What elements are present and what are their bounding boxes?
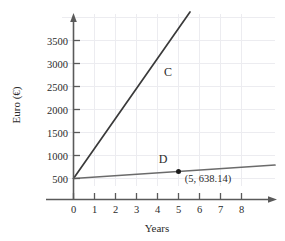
horizontal-gridlines xyxy=(62,41,275,179)
x-axis-ticks xyxy=(74,193,242,200)
series-label-d: D xyxy=(159,152,168,166)
chart-figure: 3500 3000 2500 2000 1500 1000 500 0 1 2 … xyxy=(0,0,285,241)
x-tick-label-7: 7 xyxy=(218,204,223,215)
y-axis-ticks xyxy=(74,41,81,179)
x-tick-label-4: 4 xyxy=(155,204,161,215)
x-tick-labels: 0 1 2 3 4 5 6 7 8 xyxy=(71,204,244,215)
x-tick-label-5: 5 xyxy=(176,204,181,215)
y-tick-label-1500: 1500 xyxy=(47,128,68,139)
x-tick-label-0: 0 xyxy=(71,204,76,215)
x-tick-label-2: 2 xyxy=(113,204,118,215)
y-tick-label-2000: 2000 xyxy=(47,105,68,116)
x-tick-label-8: 8 xyxy=(239,204,244,215)
x-tick-label-3: 3 xyxy=(134,204,139,215)
series-line-d xyxy=(74,165,276,179)
point-annotation-label: (5, 638.14) xyxy=(185,173,232,185)
y-tick-label-2500: 2500 xyxy=(47,82,68,93)
vertical-gridlines xyxy=(74,14,242,186)
gridlines xyxy=(62,14,275,186)
y-tick-label-500: 500 xyxy=(52,174,68,185)
x-tick-label-1: 1 xyxy=(92,204,97,215)
y-tick-label-3000: 3000 xyxy=(47,59,68,70)
series-line-c xyxy=(74,12,191,179)
data-point-marker xyxy=(176,169,181,174)
line-chart-canvas: 3500 3000 2500 2000 1500 1000 500 0 1 2 … xyxy=(0,0,285,241)
x-axis-title: Years xyxy=(145,222,170,234)
y-tick-label-3500: 3500 xyxy=(47,36,68,47)
series-label-c: C xyxy=(164,65,172,79)
x-tick-label-6: 6 xyxy=(197,204,202,215)
y-tick-label-1000: 1000 xyxy=(47,151,68,162)
y-tick-labels: 3500 3000 2500 2000 1500 1000 500 xyxy=(47,36,68,185)
y-axis-title: Euro (€) xyxy=(10,86,23,123)
x-axis-arrowhead xyxy=(268,196,277,203)
